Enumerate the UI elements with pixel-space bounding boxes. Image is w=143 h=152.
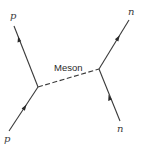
label-top-left-proton: p bbox=[10, 10, 17, 21]
outgoing-neutron-line bbox=[99, 20, 129, 69]
label-bottom-right-neutron: n bbox=[117, 123, 123, 134]
feynman-diagram: p p n n Meson bbox=[0, 0, 143, 152]
arrow-icon bbox=[115, 35, 120, 41]
incoming-proton-line bbox=[9, 87, 38, 131]
incoming-neutron-line bbox=[99, 69, 120, 121]
label-meson: Meson bbox=[54, 62, 83, 73]
label-bottom-left-proton: p bbox=[4, 133, 11, 144]
label-top-right-neutron: n bbox=[128, 6, 134, 17]
outgoing-proton-line bbox=[14, 26, 38, 87]
